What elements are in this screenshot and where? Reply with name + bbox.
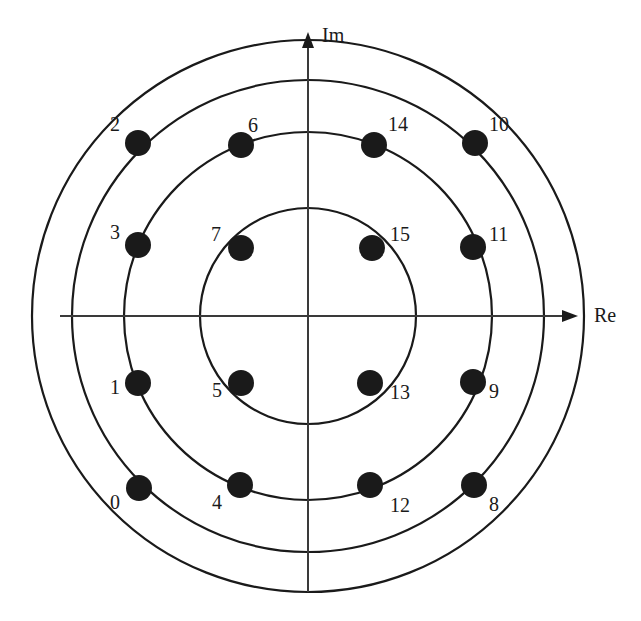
point-label-3: 3 <box>110 222 120 242</box>
point-label-2: 2 <box>110 114 120 134</box>
point-label-12: 12 <box>390 495 410 515</box>
constellation-point-11[interactable] <box>460 234 486 260</box>
constellation-point-12[interactable] <box>357 472 383 498</box>
point-label-1: 1 <box>110 377 120 397</box>
point-label-9: 9 <box>489 381 499 401</box>
constellation-canvas <box>0 0 641 621</box>
point-label-6: 6 <box>248 115 258 135</box>
constellation-point-13[interactable] <box>357 370 383 396</box>
real-axis-arrowhead <box>562 310 578 322</box>
constellation-point-14[interactable] <box>361 132 387 158</box>
point-label-14: 14 <box>388 114 408 134</box>
constellation-point-10[interactable] <box>462 130 488 156</box>
constellation-point-2[interactable] <box>125 130 151 156</box>
constellation-point-4[interactable] <box>227 472 253 498</box>
point-label-11: 11 <box>489 224 508 244</box>
constellation-point-8[interactable] <box>461 472 487 498</box>
constellation-figure: Re Im 0123456789101112131415 <box>0 0 641 621</box>
constellation-point-5[interactable] <box>228 370 254 396</box>
constellation-point-15[interactable] <box>359 235 385 261</box>
constellation-point-0[interactable] <box>126 475 152 501</box>
constellation-point-9[interactable] <box>460 369 486 395</box>
point-label-4: 4 <box>212 492 222 512</box>
point-label-7: 7 <box>211 224 221 244</box>
real-axis-label: Re <box>594 305 616 325</box>
constellation-point-7[interactable] <box>228 235 254 261</box>
point-label-8: 8 <box>489 494 499 514</box>
point-label-15: 15 <box>390 224 410 244</box>
imaginary-axis-label: Im <box>322 25 344 45</box>
point-label-10: 10 <box>489 114 509 134</box>
point-label-0: 0 <box>110 492 120 512</box>
point-label-13: 13 <box>390 382 410 402</box>
point-label-5: 5 <box>212 380 222 400</box>
constellation-point-1[interactable] <box>125 370 151 396</box>
constellation-point-3[interactable] <box>125 232 151 258</box>
